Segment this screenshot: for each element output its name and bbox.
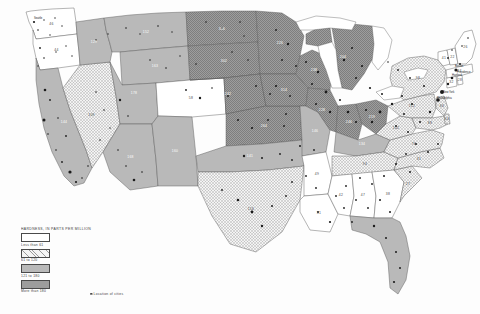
lake-huron-erie <box>372 26 392 70</box>
legend-row-3[interactable]: More than 180 <box>21 280 113 294</box>
state-label-WA: 46 <box>49 22 53 26</box>
state-label-AZ: 168 <box>127 155 134 159</box>
city-label-new-york: New York <box>443 90 455 94</box>
city-note-label: Location of cities <box>94 292 124 296</box>
legend-swatch-2 <box>21 264 50 273</box>
city-legend-note: Location of cities <box>90 292 123 296</box>
state-label-AL: 47 <box>361 193 365 197</box>
legend-row-2[interactable]: 121 to 180 <box>21 264 113 278</box>
state-label-MS: 42 <box>339 193 343 197</box>
state-label-WV: 102 <box>393 126 400 130</box>
legend-title: HARDNESS, IN PARTS PER MILLION <box>21 227 142 232</box>
state-label-NE: 242 <box>225 92 232 96</box>
state-label-MI: 204 <box>340 55 347 59</box>
state-label-NJ: 66 <box>440 104 444 108</box>
state-label-DE: 64 <box>445 117 449 121</box>
state-label-GA: 38 <box>386 192 390 196</box>
state-label-VT: 41 <box>442 56 446 60</box>
city-label-boston: Boston <box>455 64 464 68</box>
state-label-MN: 226 <box>277 41 284 45</box>
state-label-ND: 306 <box>219 27 226 31</box>
state-label-LA: 51 <box>317 211 321 215</box>
state-label-AR: 49 <box>315 172 319 176</box>
state-label-VA: 76 <box>412 142 416 146</box>
state-label-NH: 22 <box>450 55 454 59</box>
state-label-NV: 109 <box>88 113 95 117</box>
city-label-providence: Providence <box>457 70 471 74</box>
legend-swatch-0 <box>21 233 50 242</box>
legend-swatch-1 <box>21 249 50 258</box>
state-label-WY: 163 <box>152 64 159 68</box>
state-label-NY: 98 <box>416 76 420 80</box>
legend: HARDNESS, IN PARTS PER MILLION Less than… <box>21 227 113 293</box>
state-label-OR: 44 <box>54 48 58 52</box>
state-label-WI: 238 <box>311 68 318 72</box>
state-label-IL: 228 <box>319 108 326 112</box>
legend-row-0[interactable]: Less than 61 <box>21 233 113 247</box>
state-label-IA: 314 <box>281 88 288 92</box>
map-figure: 4644144129109152163178168581603063022422… <box>0 0 480 314</box>
state-label-CA: 144 <box>61 120 68 124</box>
legend-label-0: Less than 61 <box>21 243 141 248</box>
state-label-ME: 26 <box>463 45 467 49</box>
legend-label-1: 61 to 120 <box>21 258 141 263</box>
state-label-NC: 31 <box>417 157 421 161</box>
state-label-IN: 246 <box>346 120 353 124</box>
legend-label-2: 121 to 180 <box>21 274 141 279</box>
state-label-SC: 27 <box>406 182 410 186</box>
state-label-RI: 28 <box>458 78 462 82</box>
state-label-KS: 264 <box>261 124 268 128</box>
state-label-TN: 94 <box>363 162 367 166</box>
state-label-PA: 112 <box>409 104 415 108</box>
state-label-ID: 129 <box>91 40 98 44</box>
state-label-MO: 146 <box>312 129 319 133</box>
state-label-NM: 160 <box>172 149 179 153</box>
state-label-OK: 141 <box>247 154 254 158</box>
state-label-KY: 134 <box>359 142 366 146</box>
state-label-MT: 152 <box>143 30 150 34</box>
city-label-philadelphia: Philadelphia <box>437 96 452 100</box>
legend-row-1[interactable]: 61 to 120 <box>21 249 113 263</box>
state-label-CT: 32 <box>449 80 453 84</box>
state-label-UT: 178 <box>131 91 138 95</box>
city-dot-icon <box>90 293 92 295</box>
state-label-MD: 88 <box>428 121 432 125</box>
lake-erie <box>376 86 404 100</box>
state-label-FL: 152 <box>377 253 384 257</box>
state-label-CO: 58 <box>189 96 193 100</box>
state-label-SD: 302 <box>221 59 228 63</box>
legend-swatch-3 <box>21 280 50 289</box>
state-label-TX: 116 <box>248 207 254 211</box>
state-label-OH: 219 <box>369 115 376 119</box>
lake-superior <box>296 16 356 30</box>
city-label-seattle: Seattle <box>34 16 43 20</box>
